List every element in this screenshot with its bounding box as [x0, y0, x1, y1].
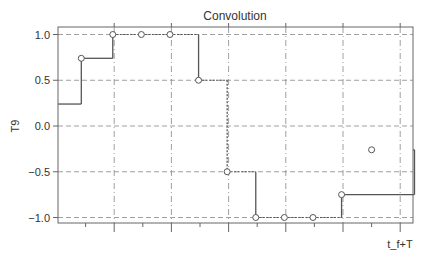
convolution-chart: Convolution T9 t_f+T 1.00.50.0−0.5−1.0	[0, 0, 427, 258]
y-axis-label: T9	[9, 120, 21, 133]
chart-title: Convolution	[203, 9, 266, 23]
data-marker	[369, 147, 375, 153]
y-tick-label: 0.0	[35, 120, 50, 132]
axis-ticks: 1.00.50.0−0.5−1.0	[28, 23, 400, 232]
y-tick-label: −1.0	[28, 212, 50, 224]
data-marker	[138, 32, 144, 38]
data-marker	[167, 32, 173, 38]
data-marker	[78, 55, 84, 61]
plot-frame	[58, 27, 413, 223]
data-marker	[339, 192, 345, 198]
data-marker	[281, 215, 287, 221]
y-tick-label: 0.5	[35, 74, 50, 86]
grid-lines	[58, 27, 413, 223]
y-tick-label: 1.0	[35, 29, 50, 41]
data-marker	[110, 32, 116, 38]
y-tick-label: −0.5	[28, 166, 50, 178]
data-marker	[310, 215, 316, 221]
x-axis-label: t_f+T	[387, 238, 413, 250]
data-marker	[224, 169, 230, 175]
data-marker	[196, 77, 202, 83]
data-marker	[253, 215, 259, 221]
